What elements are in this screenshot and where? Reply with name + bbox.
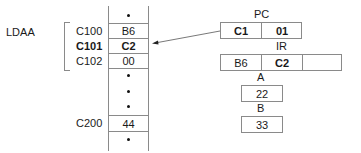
instruction-bracket	[64, 22, 70, 71]
memory-ellipsis-dot	[127, 74, 130, 77]
register-pc: C1 01	[220, 22, 302, 39]
register-ir-byte1: B6	[221, 56, 261, 70]
pointer-arrow-icon	[150, 28, 222, 48]
address-label-c100: C100	[76, 24, 102, 38]
register-ir-byte2: C2	[262, 56, 302, 70]
register-ir: B6 C2	[220, 54, 342, 71]
register-pc-low: 01	[262, 24, 302, 38]
memory-ellipsis-dot	[127, 138, 130, 141]
instruction-mnemonic: LDAA	[6, 25, 35, 39]
memory-cell-c200: 44	[108, 117, 149, 131]
register-b-value: 33	[242, 118, 282, 132]
register-label-b: B	[257, 101, 264, 115]
memory-ellipsis-dot	[127, 105, 130, 108]
memory-cell-c101: C2	[108, 39, 149, 53]
memory-divider	[108, 68, 149, 69]
memory-divider	[108, 115, 149, 116]
memory-cell-c102: 00	[108, 54, 149, 68]
memory-ellipsis-dot	[127, 14, 130, 17]
register-label-pc: PC	[254, 7, 269, 21]
address-label-c101: C101	[76, 39, 102, 53]
address-label-c200: C200	[76, 116, 102, 130]
register-divider	[302, 55, 303, 70]
address-label-c102: C102	[76, 54, 102, 68]
register-a-value: 22	[242, 87, 282, 101]
memory-divider	[108, 131, 149, 132]
register-a: 22	[241, 85, 283, 102]
register-b: 33	[241, 116, 283, 133]
register-pc-high: C1	[221, 24, 261, 38]
memory-ellipsis-dot	[127, 90, 130, 93]
memory-cell-c100: B6	[108, 24, 149, 38]
register-label-a: A	[257, 70, 264, 84]
register-label-ir: IR	[276, 39, 287, 53]
